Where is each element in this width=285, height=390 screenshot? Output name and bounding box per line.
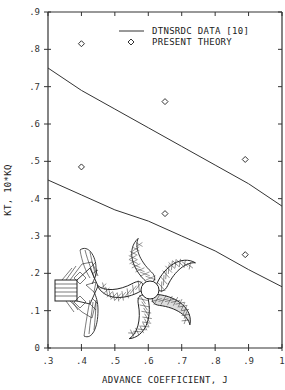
x-axis-title: ADVANCE COEFFICIENT, J — [102, 375, 228, 385]
diamond-marker-icon — [242, 252, 248, 258]
y-tick-label: .6 — [29, 119, 40, 129]
y-tick-label: .7 — [29, 82, 40, 92]
diamond-marker-icon — [162, 211, 168, 217]
x-tick-label: .4 — [76, 356, 87, 366]
y-tick-label: .1 — [29, 306, 40, 316]
diamond-marker-icon — [78, 41, 84, 47]
propeller-blade — [94, 270, 143, 307]
y-tick-label: .8 — [29, 44, 40, 54]
propeller-hub — [141, 281, 159, 299]
propeller-side-view-illustration — [55, 248, 98, 336]
x-tick-label: .8 — [210, 356, 221, 366]
y-tick-label: .4 — [29, 194, 40, 204]
x-tick-label: .5 — [109, 356, 120, 366]
propeller-front-view-illustration — [94, 238, 200, 344]
y-tick-label: .9 — [29, 7, 40, 17]
x-tick-label: .9 — [243, 356, 254, 366]
legend-diamond-icon — [128, 39, 134, 45]
y-axis-title: KT, 10*KQ — [3, 164, 13, 215]
legend: DTNSRDC DATA [10] PRESENT THEORY — [119, 26, 249, 47]
legend-label-present-theory: PRESENT THEORY — [152, 37, 232, 47]
diamond-marker-icon — [162, 99, 168, 105]
propeller-blade — [128, 238, 156, 283]
x-tick-label: .7 — [176, 356, 187, 366]
diamond-marker-icon — [78, 164, 84, 170]
x-tick-label: .6 — [143, 356, 154, 366]
y-tick-label: .3 — [29, 231, 40, 241]
x-tick-label: 1 — [279, 356, 284, 366]
series-layer — [48, 41, 282, 287]
y-tick-label: 0 — [35, 343, 40, 353]
chart: .3.4.5.6.7.8.91 0.1.2.3.4.5.6.7.8.9 DTNS… — [0, 0, 285, 390]
x-axis-ticks: .3.4.5.6.7.8.91 — [43, 12, 285, 366]
y-tick-label: .2 — [29, 268, 40, 278]
y-tick-label: .5 — [29, 156, 40, 166]
diamond-marker-icon — [242, 156, 248, 162]
data-line — [48, 68, 282, 206]
legend-label-dtnsrdc: DTNSRDC DATA [10] — [152, 26, 249, 36]
x-tick-label: .3 — [43, 356, 54, 366]
